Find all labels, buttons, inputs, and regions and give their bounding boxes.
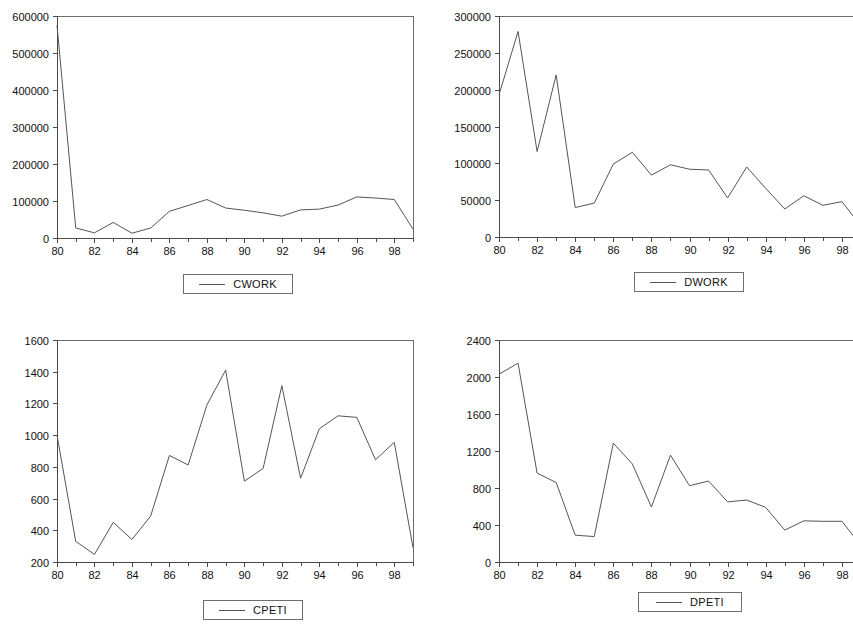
svg-text:200000: 200000: [12, 159, 49, 171]
svg-text:500000: 500000: [12, 48, 49, 60]
svg-text:86: 86: [163, 245, 175, 257]
svg-text:92: 92: [276, 245, 288, 257]
svg-text:96: 96: [351, 245, 363, 257]
svg-text:94: 94: [760, 569, 772, 581]
svg-text:94: 94: [313, 245, 325, 257]
svg-text:0: 0: [485, 557, 491, 569]
svg-text:200: 200: [31, 557, 49, 569]
svg-text:98: 98: [388, 245, 400, 257]
svg-text:100000: 100000: [454, 158, 491, 170]
svg-text:2400: 2400: [467, 335, 491, 347]
legend-label-cwork: CWORK: [233, 278, 277, 290]
svg-text:90: 90: [238, 569, 250, 581]
svg-text:84: 84: [126, 245, 138, 257]
svg-text:94: 94: [760, 244, 772, 256]
panel-dpeti: 0400800120016002000240080828486889092949…: [443, 322, 853, 585]
svg-text:96: 96: [351, 569, 363, 581]
svg-text:600: 600: [31, 494, 49, 506]
svg-text:400000: 400000: [12, 85, 49, 97]
svg-text:88: 88: [645, 569, 657, 581]
svg-text:84: 84: [126, 569, 138, 581]
svg-text:1600: 1600: [467, 409, 491, 421]
legend-dwork: DWORK: [634, 272, 744, 292]
cpeti-plot: 2004006008001000120014001600808284868890…: [0, 322, 425, 587]
svg-text:80: 80: [493, 569, 505, 581]
svg-text:50000: 50000: [460, 195, 491, 207]
svg-text:90: 90: [684, 244, 696, 256]
svg-text:2000: 2000: [467, 372, 491, 384]
legend-label-cpeti: CPETI: [253, 604, 287, 616]
svg-text:400: 400: [473, 520, 491, 532]
svg-text:250000: 250000: [454, 48, 491, 60]
svg-text:90: 90: [238, 245, 250, 257]
legend-line-swatch-cpeti: [219, 610, 245, 611]
svg-text:1600: 1600: [25, 335, 49, 347]
svg-text:98: 98: [388, 569, 400, 581]
legend-label-dwork: DWORK: [684, 276, 728, 288]
svg-text:82: 82: [531, 244, 543, 256]
svg-text:82: 82: [88, 245, 100, 257]
dpeti-plot: 0400800120016002000240080828486889092949…: [443, 322, 853, 585]
svg-text:150000: 150000: [454, 122, 491, 134]
svg-text:80: 80: [51, 245, 63, 257]
svg-text:96: 96: [798, 569, 810, 581]
svg-text:84: 84: [569, 569, 581, 581]
legend-cpeti: CPETI: [203, 600, 303, 620]
dwork-plot: 0500001000001500002000002500003000008082…: [443, 0, 853, 263]
legend-line-swatch-dwork: [650, 282, 676, 283]
svg-text:88: 88: [645, 244, 657, 256]
panel-cpeti: 2004006008001000120014001600808284868890…: [0, 322, 425, 587]
cwork-plot: 0100000200000300000400000500000600000808…: [0, 0, 425, 265]
svg-text:98: 98: [836, 569, 848, 581]
legend-cwork: CWORK: [183, 274, 293, 294]
svg-text:0: 0: [485, 232, 491, 244]
svg-text:400: 400: [31, 525, 49, 537]
svg-text:86: 86: [607, 244, 619, 256]
panel-cwork: 0100000200000300000400000500000600000808…: [0, 0, 425, 265]
legend-line-swatch-cwork: [199, 284, 225, 285]
four-panel-chart-figure: 0100000200000300000400000500000600000808…: [0, 0, 853, 624]
legend-line-swatch-dpeti: [656, 602, 682, 603]
panel-dwork: 0500001000001500002000002500003000008082…: [443, 0, 853, 263]
svg-text:92: 92: [722, 244, 734, 256]
svg-text:0: 0: [43, 233, 49, 245]
svg-text:1000: 1000: [25, 430, 49, 442]
svg-text:84: 84: [569, 244, 581, 256]
svg-text:200000: 200000: [454, 85, 491, 97]
svg-text:96: 96: [798, 244, 810, 256]
svg-text:600000: 600000: [12, 11, 49, 23]
svg-text:300000: 300000: [454, 11, 491, 23]
svg-text:82: 82: [88, 569, 100, 581]
svg-text:1200: 1200: [25, 398, 49, 410]
svg-text:300000: 300000: [12, 122, 49, 134]
svg-text:1200: 1200: [467, 446, 491, 458]
svg-text:94: 94: [313, 569, 325, 581]
legend-label-dpeti: DPETI: [690, 596, 724, 608]
svg-text:92: 92: [276, 569, 288, 581]
svg-text:88: 88: [201, 245, 213, 257]
svg-text:100000: 100000: [12, 196, 49, 208]
svg-text:80: 80: [493, 244, 505, 256]
svg-text:88: 88: [201, 569, 213, 581]
svg-text:82: 82: [531, 569, 543, 581]
svg-text:86: 86: [607, 569, 619, 581]
svg-text:98: 98: [836, 244, 848, 256]
svg-text:800: 800: [473, 483, 491, 495]
svg-text:1400: 1400: [25, 367, 49, 379]
legend-dpeti: DPETI: [638, 592, 742, 612]
svg-text:86: 86: [163, 569, 175, 581]
svg-text:92: 92: [722, 569, 734, 581]
svg-text:800: 800: [31, 462, 49, 474]
svg-text:80: 80: [51, 569, 63, 581]
svg-text:90: 90: [684, 569, 696, 581]
